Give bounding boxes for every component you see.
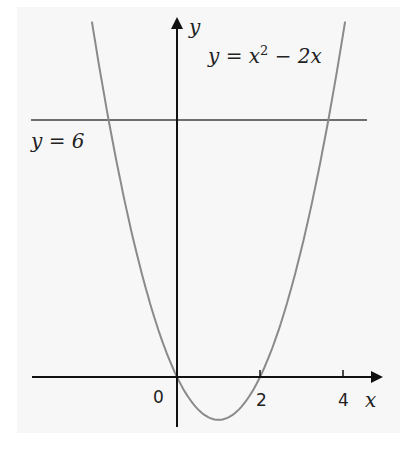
x-axis-label: x bbox=[365, 388, 376, 412]
parabola-curve bbox=[92, 22, 345, 420]
tick-label-2: 2 bbox=[256, 390, 267, 410]
line-equation-label: y = 6 bbox=[30, 129, 85, 153]
chart-svg: y x 0 2 4 y = x2 − 2x y = 6 bbox=[0, 0, 416, 450]
origin-label: 0 bbox=[153, 387, 164, 407]
curve-equation-label: y = x2 − 2x bbox=[207, 43, 322, 68]
y-axis-arrow-icon bbox=[171, 17, 183, 29]
y-axis-label: y bbox=[188, 15, 201, 39]
tick-label-4: 4 bbox=[338, 390, 349, 410]
x-axis-arrow-icon bbox=[371, 371, 383, 383]
